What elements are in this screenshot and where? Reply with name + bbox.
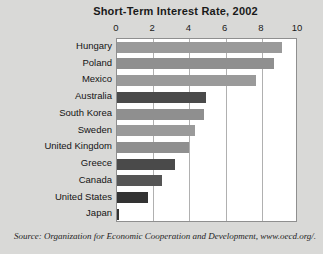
bar-row — [117, 72, 296, 89]
bar-row — [117, 89, 296, 106]
category-label: South Korea — [59, 105, 112, 122]
bar — [117, 109, 204, 120]
bar-series — [117, 39, 296, 221]
x-tick-label: 2 — [150, 22, 155, 33]
category-label: Hungary — [76, 38, 112, 55]
plot-area — [116, 38, 297, 222]
bar — [117, 142, 189, 153]
bar-row — [117, 206, 296, 223]
bar-row — [117, 39, 296, 56]
bar-row — [117, 156, 296, 173]
x-tick-label: 4 — [186, 22, 191, 33]
bar — [117, 209, 119, 220]
x-tick-label: 0 — [113, 22, 118, 33]
bar — [117, 192, 148, 203]
category-label: Greece — [81, 155, 112, 172]
category-label: Canada — [79, 172, 112, 189]
category-label: United Kingdom — [44, 138, 112, 155]
bar-row — [117, 139, 296, 156]
bar — [117, 175, 162, 186]
category-label: Japan — [86, 205, 112, 222]
bar — [117, 125, 195, 136]
bar — [117, 42, 282, 53]
category-label: Australia — [75, 88, 112, 105]
category-label: Sweden — [78, 122, 112, 139]
category-label: Mexico — [82, 71, 112, 88]
source-note: Source: Organization for Economic Cooper… — [14, 231, 316, 241]
bar-row — [117, 173, 296, 190]
bar-row — [117, 56, 296, 73]
category-label: Poland — [82, 55, 112, 72]
bar — [117, 58, 274, 69]
chart-figure: Short-Term Interest Rate, 2002 0246810 H… — [0, 0, 323, 254]
bar — [117, 159, 175, 170]
bar-row — [117, 123, 296, 140]
bar-row — [117, 106, 296, 123]
x-axis-tick-labels: 0246810 — [116, 22, 297, 36]
category-axis-labels: HungaryPolandMexicoAustraliaSouth KoreaS… — [0, 38, 112, 222]
chart-title: Short-Term Interest Rate, 2002 — [0, 5, 323, 17]
x-tick-label: 8 — [258, 22, 263, 33]
x-tick-label: 6 — [222, 22, 227, 33]
bar-row — [117, 190, 296, 207]
bar — [117, 75, 256, 86]
x-tick-label: 10 — [292, 22, 303, 33]
category-label: United States — [55, 189, 112, 206]
bar — [117, 92, 206, 103]
